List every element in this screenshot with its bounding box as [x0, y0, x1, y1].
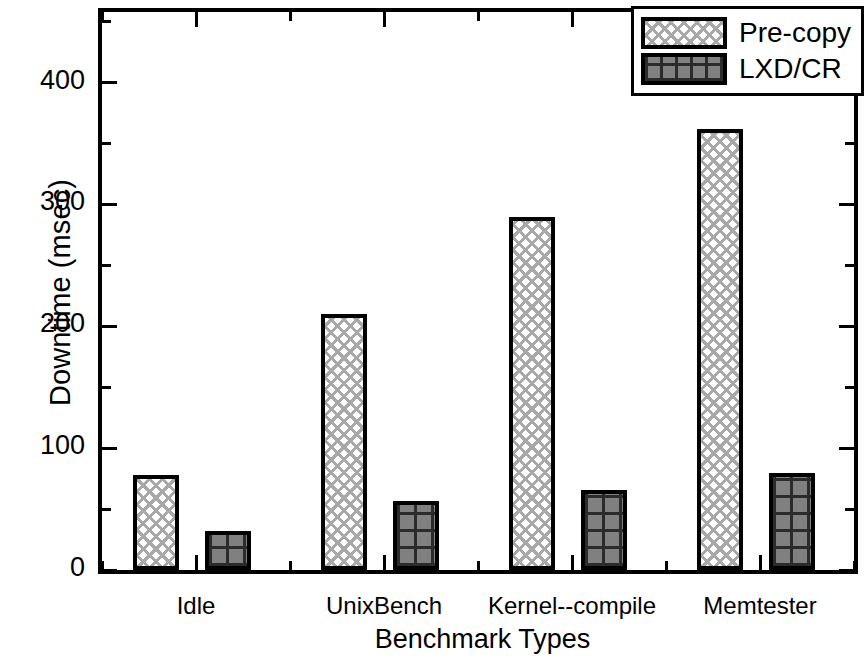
bar-pre-copy-unixbench	[321, 314, 367, 570]
x-axis-minor-tick	[853, 561, 856, 570]
y-axis-major-tick	[839, 447, 854, 450]
x-axis-minor-tick	[101, 561, 104, 570]
x-axis-top-major-tick	[383, 12, 386, 27]
x-axis-minor-tick	[477, 561, 480, 570]
x-axis-major-tick	[571, 555, 574, 570]
bar-lxd-cr-idle	[205, 531, 251, 570]
x-axis-tick-label: Kernel--compile	[488, 592, 656, 620]
bar-lxd-cr-kernel-compile	[581, 490, 627, 570]
y-axis-major-tick	[102, 81, 117, 84]
x-axis-title: Benchmark Types	[95, 624, 867, 655]
y-axis-major-tick	[102, 203, 117, 206]
x-axis-tick-label: UnixBench	[326, 592, 442, 620]
bar-pre-copy-memtester	[697, 129, 743, 570]
legend-label-pre-copy: Pre-copy	[739, 19, 851, 47]
x-axis-top-minor-tick	[477, 12, 480, 21]
y-axis-tick-label: 400	[7, 67, 85, 94]
x-axis-tick-label: Idle	[177, 592, 216, 620]
bar-pre-copy-kernel-compile	[509, 217, 555, 570]
legend-swatch-lxd-cr	[641, 53, 727, 85]
y-axis-major-tick	[839, 325, 854, 328]
y-axis-minor-tick	[845, 142, 854, 145]
x-axis-minor-tick	[665, 561, 668, 570]
y-axis-major-tick	[839, 203, 854, 206]
x-axis-top-major-tick	[195, 12, 198, 27]
x-axis-top-major-tick	[571, 12, 574, 27]
legend: Pre-copy LXD/CR	[631, 6, 864, 96]
y-axis-major-tick	[102, 447, 117, 450]
y-axis-minor-tick	[845, 264, 854, 267]
x-axis-tick-label: Memtester	[703, 592, 816, 620]
y-axis-major-tick	[102, 325, 117, 328]
y-axis-major-tick	[102, 569, 117, 572]
bar-lxd-cr-unixbench	[393, 501, 439, 570]
x-axis-top-minor-tick	[289, 12, 292, 21]
y-axis-minor-tick	[102, 508, 111, 511]
legend-label-lxd-cr: LXD/CR	[739, 55, 842, 83]
y-axis-minor-tick	[845, 386, 854, 389]
y-axis-tick-label: 300	[7, 188, 85, 215]
x-axis-major-tick	[195, 555, 198, 570]
legend-entry-lxd-cr: LXD/CR	[641, 51, 851, 87]
y-axis-minor-tick	[102, 264, 111, 267]
y-axis-tick-label: 100	[7, 432, 85, 459]
bar-lxd-cr-memtester	[769, 473, 815, 570]
legend-entry-pre-copy: Pre-copy	[641, 15, 851, 51]
x-axis-major-tick	[759, 555, 762, 570]
x-axis-top-minor-tick	[101, 12, 104, 21]
y-axis-tick-label: 200	[7, 310, 85, 337]
bar-pre-copy-idle	[133, 475, 179, 570]
y-axis-minor-tick	[102, 142, 111, 145]
y-axis-minor-tick	[102, 386, 111, 389]
x-axis-minor-tick	[289, 561, 292, 570]
x-axis-major-tick	[383, 555, 386, 570]
y-axis-tick-label: 0	[7, 554, 85, 581]
bar-chart-figure: Downtime (msec) Benchmark Types 01002003…	[0, 0, 867, 671]
legend-swatch-pre-copy	[641, 17, 727, 49]
y-axis-minor-tick	[845, 508, 854, 511]
